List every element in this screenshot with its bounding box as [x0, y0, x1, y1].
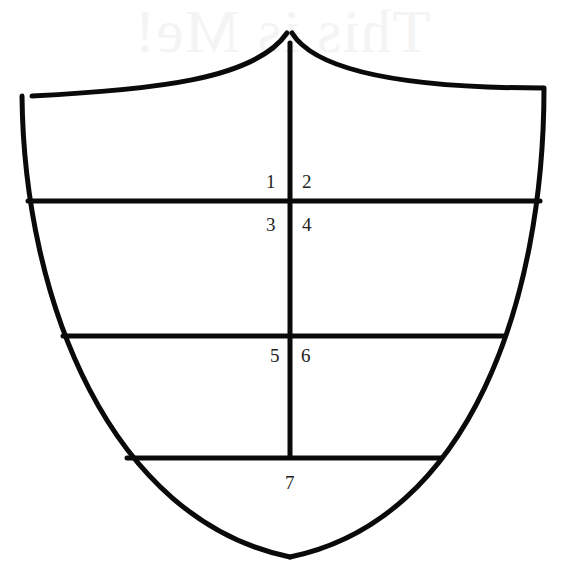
- shield-right-edge: [290, 88, 544, 557]
- shield-top-right-edge: [292, 33, 543, 88]
- shield-top-left-edge: [32, 33, 287, 96]
- section-label-5: 5: [270, 346, 280, 365]
- section-label-6: 6: [301, 346, 311, 365]
- section-label-2: 2: [302, 172, 312, 191]
- section-label-7: 7: [285, 473, 295, 492]
- section-label-1: 1: [266, 172, 276, 191]
- section-label-3: 3: [266, 215, 276, 234]
- shield-outline: [0, 0, 564, 584]
- section-label-4: 4: [302, 215, 312, 234]
- shield-left-edge: [22, 96, 290, 557]
